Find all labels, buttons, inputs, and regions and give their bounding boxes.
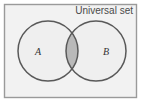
venn-diagram-canvas xyxy=(0,0,143,110)
set-a-label: A xyxy=(35,47,41,57)
universal-set-label: Universal set xyxy=(75,6,133,16)
venn-diagram-figure: Universal set A B xyxy=(0,0,143,110)
set-b-label: B xyxy=(103,47,109,57)
